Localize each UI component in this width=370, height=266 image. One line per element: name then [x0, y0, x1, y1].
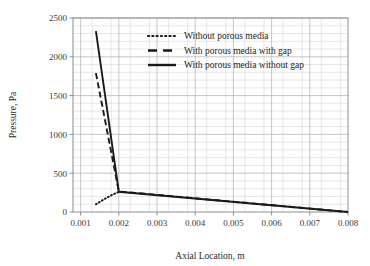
y-tick-label: 0 — [63, 207, 68, 217]
y-tick-label: 1500 — [49, 91, 68, 101]
y-tick-label: 2500 — [49, 13, 68, 23]
legend-label: Without porous media — [184, 31, 269, 41]
pressure-vs-axial-location-chart: 0.0010.0020.0030.0040.0050.0060.0070.008… — [0, 0, 370, 266]
x-tick-label: 0.001 — [71, 218, 91, 228]
y-tick-label: 500 — [54, 169, 68, 179]
x-axis-title: Axial Location, m — [175, 251, 245, 261]
x-tick-label: 0.007 — [300, 218, 321, 228]
x-tick-label: 0.008 — [338, 218, 359, 228]
legend-label: With porous media without gap — [184, 60, 304, 70]
x-tick-label: 0.003 — [147, 218, 168, 228]
legend-label: With porous media with gap — [184, 46, 292, 56]
x-tick-label: 0.005 — [223, 218, 244, 228]
x-tick-label: 0.004 — [185, 218, 206, 228]
y-tick-label: 1000 — [49, 130, 68, 140]
x-tick-label: 0.002 — [109, 218, 129, 228]
x-tick-label: 0.006 — [261, 218, 282, 228]
y-axis-title: Pressure, Pa — [8, 91, 18, 138]
y-tick-label: 2000 — [49, 52, 68, 62]
chart-canvas: 0.0010.0020.0030.0040.0050.0060.0070.008… — [0, 0, 370, 266]
